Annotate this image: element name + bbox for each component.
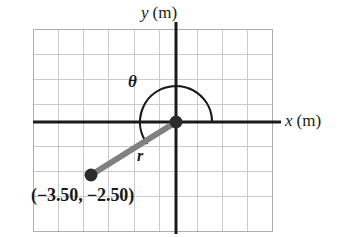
theta-label: θ [128, 73, 137, 90]
y-axis-unit: (m) [153, 3, 178, 22]
point-coordinates-label: (−3.50, −2.50) [31, 186, 134, 204]
radius-label: r [137, 148, 143, 164]
point-marker [85, 169, 98, 182]
x-axis-unit: (m) [297, 111, 322, 130]
y-axis-variable: y [141, 3, 149, 22]
y-axis-label: y(m) [141, 4, 177, 21]
x-axis-variable: x [285, 111, 293, 130]
x-axis-label: x(m) [285, 112, 321, 129]
origin-marker [170, 116, 183, 129]
figure-root: y(m) x(m) θ r (−3.50, −2.50) [0, 0, 339, 237]
